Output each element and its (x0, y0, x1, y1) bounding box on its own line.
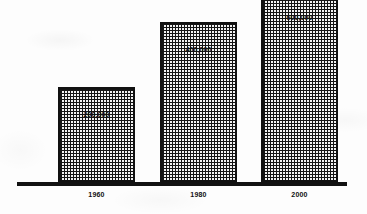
bar-2000 (261, 0, 338, 182)
x-axis-tick-label-1980: 1980 (160, 190, 237, 199)
x-axis-tick-label-1960: 1960 (58, 190, 135, 199)
bar-chart-figure: 200,000 400,000 600,000 1960 1980 2000 (0, 0, 367, 214)
bar-value-label-2000: 600,000 (261, 13, 338, 22)
bar-value-label-1960: 200,000 (58, 110, 135, 119)
x-axis-line (17, 182, 347, 186)
bar-1960 (58, 87, 135, 182)
bar-value-label-1980: 400,000 (160, 45, 237, 54)
x-axis-tick-label-2000: 2000 (261, 190, 338, 199)
plot-area: 200,000 400,000 600,000 1960 1980 2000 (0, 0, 367, 214)
